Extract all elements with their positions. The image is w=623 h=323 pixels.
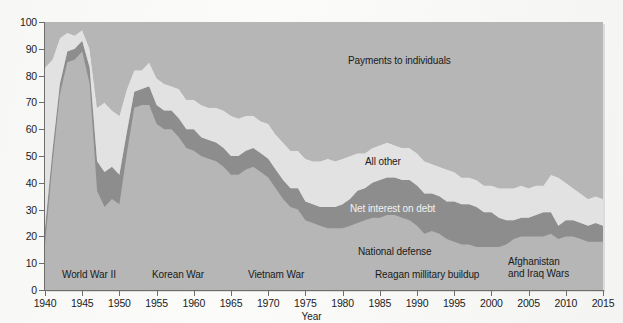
y-tick-label: 100	[0, 16, 37, 28]
era-label-world-war-ii: World War II	[62, 269, 116, 281]
x-tick-label: 2010	[546, 297, 586, 309]
x-tick-label: 1985	[360, 297, 400, 309]
y-tick-mark	[39, 102, 45, 103]
y-tick-mark	[39, 76, 45, 77]
era-label-line: Vietnam War	[248, 269, 304, 281]
y-tick-mark	[39, 129, 45, 130]
series-label-net-interest-on-debt: Net interest on debt	[350, 203, 435, 214]
x-tick-label: 1990	[397, 297, 437, 309]
era-label-reagan-millitary-buildup: Reagan millitary buildup	[375, 269, 479, 281]
era-label-korean-war: Korean War	[152, 269, 204, 281]
era-label-line: and Iraq Wars	[508, 268, 569, 280]
y-tick-label: 80	[0, 70, 37, 82]
y-tick-mark	[39, 263, 45, 264]
x-tick-label: 2005	[509, 297, 549, 309]
x-tick-mark	[566, 291, 567, 296]
y-tick-mark	[39, 210, 45, 211]
x-tick-mark	[157, 291, 158, 296]
era-label-afghanistan-and-iraq-wars: Afghanistanand Iraq Wars	[508, 256, 569, 279]
y-tick-label: 20	[0, 230, 37, 242]
x-tick-mark	[194, 291, 195, 296]
era-label-line: Reagan millitary buildup	[375, 269, 479, 281]
y-tick-mark	[39, 49, 45, 50]
y-tick-label: 90	[0, 43, 37, 55]
x-tick-label: 1980	[323, 297, 363, 309]
y-tick-mark	[39, 183, 45, 184]
era-label-line: Korean War	[152, 269, 204, 281]
x-tick-mark	[491, 291, 492, 296]
x-tick-label: 1940	[25, 297, 65, 309]
y-tick-label: 50	[0, 150, 37, 162]
x-tick-mark	[119, 291, 120, 296]
x-tick-mark	[343, 291, 344, 296]
x-tick-mark	[82, 291, 83, 296]
x-tick-label: 1995	[434, 297, 474, 309]
x-tick-mark	[417, 291, 418, 296]
x-tick-mark	[45, 291, 46, 296]
y-tick-mark	[39, 22, 45, 23]
x-axis-line	[44, 290, 604, 291]
x-tick-label: 1970	[248, 297, 288, 309]
x-tick-label: 1975	[285, 297, 325, 309]
y-tick-mark	[39, 236, 45, 237]
era-label-vietnam-war: Vietnam War	[248, 269, 304, 281]
x-tick-mark	[380, 291, 381, 296]
y-tick-label: 40	[0, 177, 37, 189]
y-tick-label: 30	[0, 204, 37, 216]
y-tick-label: 10	[0, 257, 37, 269]
x-tick-label: 1965	[211, 297, 251, 309]
x-tick-label: 1960	[174, 297, 214, 309]
x-tick-mark	[529, 291, 530, 296]
series-label-national-defense: National defense	[358, 246, 431, 257]
y-tick-label: 0	[0, 284, 37, 296]
era-label-line: World War II	[62, 269, 116, 281]
x-tick-mark	[231, 291, 232, 296]
y-tick-mark	[39, 156, 45, 157]
series-label-all-other: All other	[365, 156, 401, 167]
x-tick-label: 2000	[471, 297, 511, 309]
x-axis-title: Year	[0, 311, 623, 322]
era-label-line: Afghanistan	[508, 256, 569, 268]
stacked-area-chart	[45, 22, 603, 290]
x-tick-label: 2015	[583, 297, 623, 309]
chart-figure: 0102030405060708090100 19401945195019551…	[0, 0, 623, 323]
plot-wrapper	[45, 22, 603, 290]
x-tick-mark	[454, 291, 455, 296]
y-tick-label: 70	[0, 96, 37, 108]
x-tick-label: 1945	[62, 297, 102, 309]
x-tick-mark	[268, 291, 269, 296]
y-tick-label: 60	[0, 123, 37, 135]
x-tick-mark	[603, 291, 604, 296]
series-label-payments-to-individuals: Payments to individuals	[348, 55, 451, 66]
x-tick-mark	[305, 291, 306, 296]
x-tick-label: 1955	[137, 297, 177, 309]
x-tick-label: 1950	[99, 297, 139, 309]
